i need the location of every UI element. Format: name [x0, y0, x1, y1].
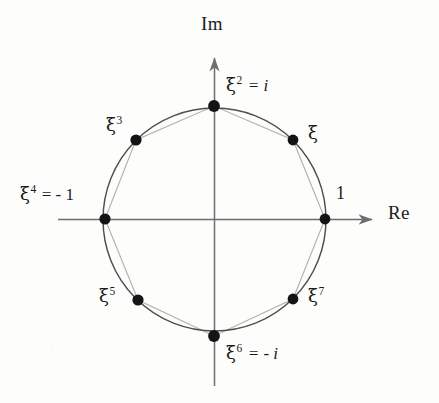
root-point-1 [320, 214, 331, 225]
label-xi7: ξ7 [308, 287, 324, 305]
label-xi4: ξ4 = - 1 [20, 185, 75, 203]
label-one-text: 1 [336, 183, 345, 203]
label-xi6-rest: = - i [248, 344, 278, 363]
label-xi2-exponent: 2 [236, 74, 242, 86]
imaginary-axis-label: Im [201, 14, 223, 33]
label-xi: ξ [308, 124, 318, 142]
label-xi-base: ξ [308, 122, 318, 143]
label-one: 1 [336, 184, 345, 202]
label-xi4-base: ξ [20, 183, 30, 204]
label-xi7-exponent: 7 [318, 285, 324, 297]
root-point-xi3 [130, 134, 141, 145]
label-xi5-exponent: 5 [109, 285, 115, 297]
label-xi6-base: ξ [226, 342, 236, 363]
label-xi2: ξ2 = i [226, 76, 269, 94]
root-point-xi7 [288, 294, 299, 305]
label-xi6: ξ6 = - i [226, 344, 279, 362]
label-xi2-base: ξ [226, 74, 236, 95]
root-point-xi2 [208, 100, 220, 112]
label-xi5-base: ξ [99, 285, 109, 306]
root-point-xi6 [208, 330, 220, 342]
label-xi6-exponent: 6 [236, 342, 242, 354]
label-xi4-rest: = - 1 [42, 185, 74, 204]
root-point-xi [288, 135, 299, 146]
label-xi2-rest: = i [248, 76, 268, 95]
label-xi7-base: ξ [308, 285, 318, 306]
label-xi3-base: ξ [106, 114, 116, 135]
root-point-xi4 [99, 213, 110, 224]
label-xi3: ξ3 [106, 116, 122, 134]
roots-of-unity-figure: Im Re 1 ξ ξ2 = i ξ3 ξ4 = - 1 ξ5 ξ6 = - i… [0, 0, 439, 403]
label-xi5: ξ5 [99, 287, 115, 305]
real-axis-label: Re [388, 203, 410, 222]
label-xi3-exponent: 3 [116, 114, 122, 126]
root-point-xi5 [132, 294, 143, 305]
label-xi4-exponent: 4 [30, 183, 36, 195]
